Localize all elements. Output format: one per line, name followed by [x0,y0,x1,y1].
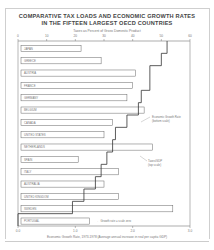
top-axis-tick-label: 0 [17,34,19,38]
annotation-taxes-scale: (top scale) [148,163,161,167]
country-label: UNITED KINGDOM [24,195,49,199]
annotation-growth-pointer [141,117,150,122]
country-label: SWEDEN [24,207,36,211]
country-label: JAPAN [24,47,33,51]
top-axis-tick-label: 10 [45,34,49,38]
country-label: UNITED STATES [24,133,46,137]
tax-bar [21,169,118,175]
country-label: GREECE [24,59,36,63]
tax-bar [21,107,144,113]
top-axis-tick-label: 30 [102,34,106,38]
country-label: PORTUGAL [24,219,40,223]
tax-bar [21,82,133,88]
country-label: FRANCE [24,84,36,88]
top-axis-tick-label: 20 [74,34,78,38]
annotation-taxes-pointer [140,156,147,161]
bottom-axis-tick-label: 3.0 [188,229,193,233]
top-axis-tick-label: 40 [131,34,135,38]
bottom-rule [5,241,209,242]
annotation-growth-scale: (bottom scale) [152,119,170,123]
annotation-zero: ← Growth rate = scale zero [97,219,132,223]
country-label: AUSTRIA [24,71,36,75]
bottom-axis-label: Economic Growth Rate, 1973-1978 (Average… [0,235,214,239]
top-axis-tick-label: 50 [160,34,164,38]
country-label: ITALY [24,170,31,174]
country-label: BELGIUM [24,108,37,112]
chart-plot: 01020304050600.01.02.03.0JAPANGREECEAUST… [0,0,214,250]
tax-bar [21,70,136,76]
bottom-axis-tick-label: 1.0 [73,229,78,233]
bottom-axis-tick-label: 2.0 [130,229,135,233]
country-label: CANADA [24,121,36,125]
top-axis-tick-label: 60 [188,34,192,38]
country-label: SPAIN [24,158,32,162]
country-label: GERMANY [24,96,38,100]
country-label: NETHERLANDS [24,145,45,149]
country-label: AUSTRALIA [24,182,40,186]
tax-bar [21,206,173,212]
bottom-axis-tick-label: 0.0 [16,229,21,233]
